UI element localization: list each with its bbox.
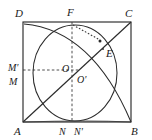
geometry-canvas: D C A B F E O O' M' M N N' xyxy=(0,0,152,140)
label-n-prime: N' xyxy=(73,126,84,137)
label-d: D xyxy=(14,7,23,19)
label-b: B xyxy=(131,125,138,137)
arc-d-to-b xyxy=(24,24,131,122)
label-o: O xyxy=(62,63,69,74)
label-a: A xyxy=(13,125,21,137)
point-e-dot xyxy=(102,48,104,50)
diagonal-ac xyxy=(23,22,131,122)
label-m-prime: M' xyxy=(7,62,19,73)
label-e: E xyxy=(105,47,113,59)
label-c: C xyxy=(125,7,133,19)
label-m: M xyxy=(8,76,18,87)
tangent-foot-dot xyxy=(99,40,102,43)
label-o-prime: O' xyxy=(77,74,87,85)
label-n: N xyxy=(58,126,67,137)
geometry-figure: D C A B F E O O' M' M N N' xyxy=(0,0,152,140)
label-f: F xyxy=(66,6,74,18)
